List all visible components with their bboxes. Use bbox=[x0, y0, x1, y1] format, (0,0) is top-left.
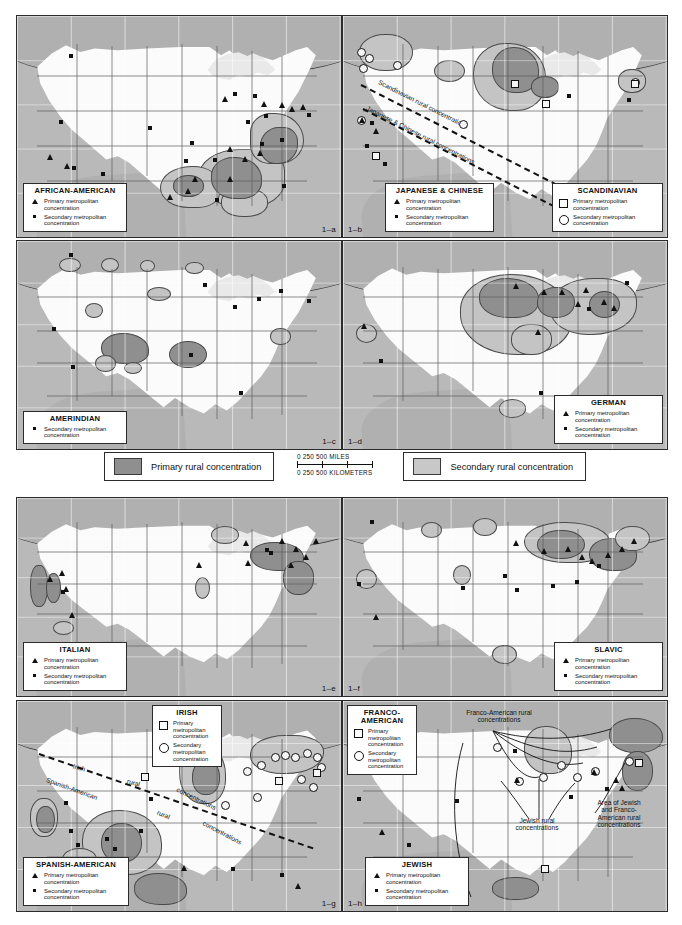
rural-area-secondary bbox=[140, 260, 155, 272]
secondary-metro-symbol bbox=[269, 551, 273, 555]
figure-number-1d: 1–d bbox=[348, 437, 362, 446]
secondary-metro-symbol bbox=[190, 141, 194, 145]
legend-label-line1: Primary metropolitan bbox=[44, 198, 98, 204]
map-panel-1d[interactable]: GERMAN Primary metropolitan concentratio… bbox=[342, 240, 668, 450]
legend-japanese-chinese[interactable]: JAPANESE & CHINESE Primary metropolitan … bbox=[385, 183, 494, 232]
legend-jewish[interactable]: JEWISH Primary metropolitan concentratio… bbox=[365, 857, 469, 906]
legend-row-secondary: Secondary metropolitan concentration bbox=[558, 214, 657, 227]
secondary-metro-symbol bbox=[148, 126, 152, 130]
dot-icon bbox=[560, 426, 571, 430]
primary-metro-symbol bbox=[289, 106, 295, 112]
annotation-area-jewish-franco: Area of Jewish and Franco- American rura… bbox=[583, 799, 655, 829]
secondary-metro-symbol bbox=[307, 113, 311, 117]
map-panel-1g[interactable]: Irish rural concentrations Spanish-Ameri… bbox=[16, 700, 342, 912]
legend-label: Secondary metropolitan concentration bbox=[173, 742, 208, 762]
primary-metro-symbol bbox=[192, 176, 198, 182]
secondary-metro-symbol bbox=[393, 61, 402, 70]
legend-row-primary: Primary metropolitan concentration bbox=[29, 198, 121, 211]
legend-label: Secondary metropolitan concentration bbox=[575, 426, 637, 439]
legend-label-line2: concentration bbox=[575, 417, 610, 423]
legend-label-line1: Primary metropolitan bbox=[44, 872, 98, 878]
rural-area-secondary bbox=[473, 518, 498, 536]
map-panel-1h[interactable]: Franco-American rural concentrations Jew… bbox=[342, 700, 668, 912]
legend-label-line2: concentration bbox=[406, 205, 441, 211]
rural-area-primary bbox=[211, 157, 262, 199]
legend-irish[interactable]: IRISH Primary metropolitan concentration… bbox=[152, 705, 222, 767]
secondary-metro-symbol bbox=[357, 582, 361, 586]
primary-metro-symbol bbox=[373, 614, 379, 620]
secondary-metro-symbol bbox=[265, 548, 269, 552]
map-panel-1f[interactable]: SLAVIC Primary metropolitan concentratio… bbox=[342, 497, 668, 697]
legend-label: Primary metropolitan concentration bbox=[173, 720, 208, 740]
legend-franco-american[interactable]: FRANCO- AMERICAN Primary metropolitan co… bbox=[347, 705, 417, 775]
legend-label: Primary metropolitan concentration bbox=[386, 872, 440, 885]
annotation-text: Jewish rural concentrations bbox=[516, 817, 559, 831]
rural-area-secondary bbox=[499, 399, 527, 418]
square-icon bbox=[353, 728, 364, 738]
map-panel-1e[interactable]: ITALIAN Primary metropolitan concentrati… bbox=[16, 497, 342, 697]
legend-german[interactable]: GERMAN Primary metropolitan concentratio… bbox=[554, 395, 663, 444]
primary-rural-legend[interactable]: Primary rural concentration bbox=[104, 452, 274, 481]
secondary-metro-symbol bbox=[493, 743, 502, 752]
legend-label-line1: Secondary metropolitan bbox=[406, 214, 468, 220]
triangle-icon bbox=[29, 198, 40, 204]
secondary-metro-symbol bbox=[309, 783, 318, 792]
map-panel-1b[interactable]: Scandinavian rural concentrations Japane… bbox=[342, 15, 668, 238]
secondary-metro-symbol bbox=[189, 353, 193, 357]
legend-label-line1: Secondary metropolitan bbox=[573, 214, 635, 220]
legend-row-primary: Primary metropolitan concentration bbox=[560, 657, 657, 670]
annotation-text: Franco-American rural concentrations bbox=[466, 709, 532, 723]
primary-metro-symbol bbox=[279, 102, 285, 108]
primary-metro-symbol bbox=[288, 562, 294, 568]
secondary-metro-symbol bbox=[459, 120, 468, 129]
legend-label-line2: concentration bbox=[44, 679, 79, 685]
legend-label-line2: metropolitan bbox=[368, 757, 400, 763]
secondary-metro-symbol bbox=[370, 121, 374, 125]
primary-metro-symbol bbox=[575, 301, 581, 307]
legend-title: JAPANESE & CHINESE bbox=[391, 187, 488, 195]
secondary-metro-symbol bbox=[627, 98, 631, 102]
primary-metro-symbol bbox=[313, 538, 319, 544]
legend-scandinavian[interactable]: SCANDINAVIAN Primary metropolitan concen… bbox=[552, 183, 663, 232]
primary-metro-symbol bbox=[196, 562, 202, 568]
legend-label-line2: concentration bbox=[573, 220, 608, 226]
map-panel-1a[interactable]: AFRICAN-AMERICAN Primary metropolitan co… bbox=[16, 15, 342, 238]
legend-amerindian[interactable]: AMERINDIAN Secondary metropolitan concen… bbox=[23, 411, 127, 444]
dot-icon bbox=[29, 673, 40, 677]
legend-african-american[interactable]: AFRICAN-AMERICAN Primary metropolitan co… bbox=[23, 183, 127, 232]
secondary-metro-symbol bbox=[253, 94, 257, 98]
secondary-metro-symbol bbox=[243, 767, 252, 776]
primary-metro-symbol bbox=[245, 560, 251, 566]
legend-slavic[interactable]: SLAVIC Primary metropolitan concentratio… bbox=[554, 642, 663, 691]
primary-metro-symbol bbox=[59, 570, 65, 576]
secondary-metro-symbol bbox=[280, 873, 284, 877]
legend-italian[interactable]: ITALIAN Primary metropolitan concentrati… bbox=[23, 642, 127, 691]
map-panel-1c[interactable]: AMERINDIAN Secondary metropolitan concen… bbox=[16, 240, 342, 450]
legend-spanish-american[interactable]: SPANISH-AMERICAN Primary metropolitan co… bbox=[23, 857, 129, 906]
primary-metro-symbol bbox=[293, 546, 299, 552]
legend-label-line1: Secondary bbox=[368, 750, 396, 756]
legend-label: Secondary metropolitan concentration bbox=[368, 750, 403, 770]
annotation-text: Area of Jewish and Franco- American rura… bbox=[597, 799, 640, 828]
primary-metro-symbol bbox=[513, 540, 519, 546]
legend-title: SCANDINAVIAN bbox=[558, 187, 657, 195]
secondary-metro-symbol bbox=[215, 198, 219, 202]
primary-metro-symbol bbox=[47, 576, 53, 582]
legend-label: Secondary metropolitan concentration bbox=[44, 214, 106, 227]
figure-number-1h: 1–h bbox=[348, 899, 362, 908]
secondary-metro-symbol bbox=[625, 281, 629, 285]
figure-number-1a: 1–a bbox=[322, 225, 336, 234]
shared-legend-strip: Primary rural concentration 0 250 500 MI… bbox=[0, 452, 682, 486]
triangle-icon bbox=[29, 872, 40, 878]
legend-row-primary: Primary metropolitan concentration bbox=[391, 198, 488, 211]
primary-metro-symbol bbox=[185, 188, 191, 194]
secondary-rural-legend[interactable]: Secondary rural concentration bbox=[403, 452, 586, 481]
rural-area-secondary bbox=[85, 303, 103, 317]
legend-row-primary: Primary metropolitan concentration bbox=[558, 198, 657, 211]
circle-icon bbox=[353, 750, 364, 761]
legend-label: Secondary metropolitan concentration bbox=[44, 673, 106, 686]
secondary-metro-symbol bbox=[573, 773, 582, 782]
legend-label-line1: Primary metropolitan bbox=[44, 657, 98, 663]
secondary-metro-symbol bbox=[246, 120, 250, 124]
secondary-metro-symbol bbox=[551, 584, 555, 588]
